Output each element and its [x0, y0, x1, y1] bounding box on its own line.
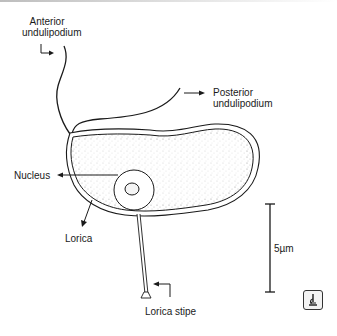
stipe-arrow — [158, 284, 170, 297]
lorica-arrow — [84, 200, 92, 222]
label-posterior-undulipodium: Posterior undulipodium — [213, 87, 273, 109]
cell-diagram — [0, 0, 337, 336]
label-lorica: Lorica — [65, 233, 92, 244]
label-lorica-stipe: Lorica stipe — [145, 306, 196, 317]
label-text: Posterior — [213, 87, 273, 98]
label-text: undulipodium — [213, 98, 273, 109]
nucleolus — [125, 183, 139, 195]
microscope-icon — [303, 290, 323, 310]
label-nucleus: Nucleus — [14, 170, 50, 181]
label-anterior-undulipodium: Anterior undulipodium — [22, 16, 72, 38]
label-text: undulipodium — [22, 27, 72, 38]
posterior-undulipodium — [72, 88, 180, 134]
anterior-arrow — [41, 44, 50, 53]
anterior-undulipodium — [57, 46, 70, 134]
label-text: Anterior — [22, 16, 72, 27]
lorica-stipe — [137, 214, 148, 294]
label-scale: 5µm — [274, 243, 294, 254]
